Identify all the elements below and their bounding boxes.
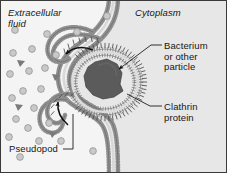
extracellular-particle <box>44 31 51 38</box>
label-clathrin-protein: Clathrin protein <box>164 102 198 123</box>
extracellular-particle <box>90 148 97 155</box>
label-bacterium: Bacterium or other particle <box>164 41 208 73</box>
endocytosis-diagram: Extracellular fluid Cytoplasm Bacterium … <box>0 0 227 173</box>
extracellular-particle <box>13 116 20 123</box>
label-cytoplasm: Cytoplasm <box>135 8 181 19</box>
extracellular-particle <box>74 29 81 36</box>
label-extracellular-fluid: Extracellular fluid <box>8 8 62 29</box>
extracellular-particle <box>25 125 32 132</box>
extracellular-particle <box>20 88 27 95</box>
extracellular-particle <box>29 46 36 53</box>
extracellular-particle <box>26 68 33 75</box>
extracellular-particle <box>6 134 13 141</box>
label-pseudopod: Pseudopod <box>9 144 58 155</box>
extracellular-particle <box>17 154 24 161</box>
extracellular-particle <box>58 138 65 145</box>
extracellular-particle <box>31 105 38 112</box>
extracellular-particle <box>7 71 14 78</box>
extracellular-particle <box>10 50 17 57</box>
extracellular-particle <box>53 52 60 59</box>
extracellular-particle <box>9 95 16 102</box>
extracellular-particle <box>42 65 49 72</box>
extracellular-particle <box>38 86 45 93</box>
extracellular-particle <box>104 13 111 20</box>
extracellular-particle <box>46 120 53 127</box>
